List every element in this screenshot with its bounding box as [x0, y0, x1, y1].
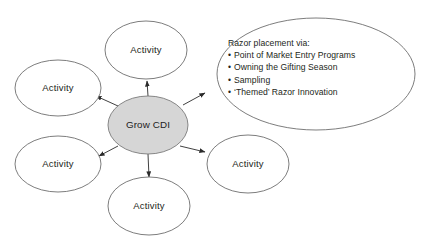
callout-bullet-text: Sampling [234, 75, 270, 85]
diagram-canvas: ActivityActivityActivityActivityActivity… [0, 0, 430, 245]
connector-to-callout [183, 93, 205, 105]
callout-bullet-text: ‘Themed’ Razor Innovation [234, 87, 338, 97]
activity-lower-left-ellipse[interactable] [15, 136, 101, 192]
activity-lower-right-ellipse[interactable] [207, 135, 289, 193]
connector-to-activity-lower-left [99, 146, 118, 156]
connector-to-activity-top [147, 81, 148, 96]
callout-bullet-item: •‘Themed’ Razor Innovation [228, 86, 403, 98]
callout-bullet-list: •Point of Market Entry Programs•Owning t… [228, 49, 403, 98]
bullet-dot-icon: • [228, 86, 231, 98]
callout-bullet-text: Owning the Gifting Season [234, 62, 337, 72]
connector-to-activity-upper-left [96, 96, 118, 106]
connector-to-activity-bottom [148, 154, 149, 177]
activity-upper-left-ellipse[interactable] [15, 60, 101, 116]
callout-bullet-item: •Owning the Gifting Season [228, 61, 403, 73]
connector-to-activity-lower-right [180, 146, 205, 152]
callout-heading: Razor placement via: [228, 37, 403, 49]
bullet-dot-icon: • [228, 49, 231, 61]
callout-bullet-text: Point of Market Entry Programs [234, 50, 355, 60]
callout-bullet-item: •Sampling [228, 74, 403, 86]
activity-bottom-ellipse[interactable] [108, 177, 190, 235]
callout-bullet-item: •Point of Market Entry Programs [228, 49, 403, 61]
bullet-dot-icon: • [228, 74, 231, 86]
center-node-ellipse[interactable] [108, 96, 188, 154]
activity-top-ellipse[interactable] [105, 21, 187, 79]
callout-text-block: Razor placement via: •Point of Market En… [228, 37, 403, 98]
bullet-dot-icon: • [228, 61, 231, 73]
